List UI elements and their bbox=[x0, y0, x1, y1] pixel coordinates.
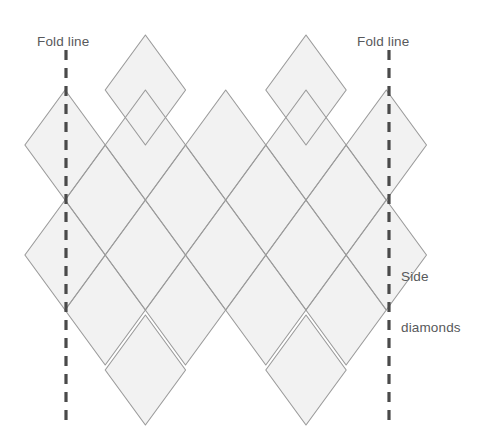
side-diamonds-label-line2: diamonds bbox=[401, 319, 461, 336]
diamond-fill-layer bbox=[25, 35, 427, 425]
side-diamonds-label-line1: Side bbox=[401, 268, 461, 285]
diamond-lattice-graphic bbox=[0, 0, 478, 448]
fold-line-right-label: Fold line bbox=[357, 33, 409, 50]
diagram-canvas: Fold line Fold line Side diamonds bbox=[0, 0, 478, 448]
side-diamonds-label: Side diamonds bbox=[401, 234, 461, 370]
fold-line-left-label: Fold line bbox=[37, 33, 89, 50]
